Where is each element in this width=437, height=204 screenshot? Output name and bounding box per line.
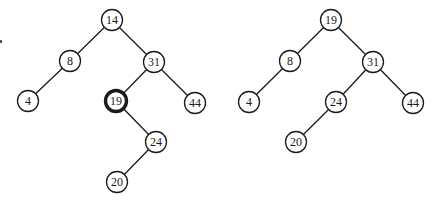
node-value: 19 [110,94,122,108]
node-value: 24 [330,95,342,109]
tree-node: 44 [403,93,424,114]
tree-edge [119,27,146,54]
tree-edge [124,150,148,175]
tree-node: 20 [107,172,128,193]
tree-node: 44 [185,93,206,114]
tree-canvas: 14831419442420 198314244420 [0,0,437,204]
tree-edge [123,109,148,135]
node-value: 31 [148,55,160,69]
tree-edge [303,109,328,134]
tree-node: 31 [363,52,384,73]
node-value: 8 [287,54,293,68]
tree-node: 24 [146,132,167,153]
tree-after-deletion: 198314244420 [239,10,424,153]
tree-edge [161,69,187,95]
edge-mark [0,40,2,43]
tree-edge [338,27,365,54]
tree-node: 4 [239,92,260,113]
tree-node-highlighted: 19 [106,91,127,112]
tree-node: 19 [321,10,342,31]
tree-node: 4 [18,91,39,112]
node-value: 14 [106,13,118,27]
node-value: 31 [367,55,379,69]
tree-node: 31 [144,52,165,73]
node-value: 44 [189,96,201,110]
node-value: 44 [407,96,419,110]
tree-node: 8 [280,51,301,72]
tree-edge [78,27,105,53]
node-value: 4 [25,94,31,108]
bst-diagram: 14831419442420 198314244420 [0,0,437,204]
tree-edge [123,70,146,94]
node-value: 24 [150,135,162,149]
node-value: 4 [246,95,252,109]
node-value: 20 [111,175,123,189]
tree-node: 20 [286,132,307,153]
tree-node: 14 [102,10,123,31]
node-value: 19 [325,13,337,27]
tree-edge [380,70,405,96]
tree-edge [36,68,63,94]
tree-edge [256,68,282,94]
node-value: 20 [290,135,302,149]
tree-node: 8 [60,51,81,72]
tree-node: 24 [326,92,347,113]
tree-edge [297,27,323,53]
tree-edge [343,70,366,95]
tree-before-deletion: 14831419442420 [18,10,206,193]
node-value: 8 [67,54,73,68]
